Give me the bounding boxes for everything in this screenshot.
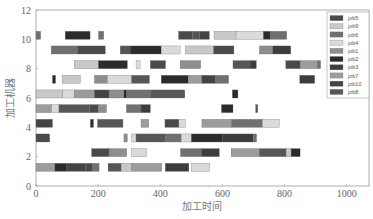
task-bar-job6 xyxy=(166,134,182,142)
task-bar-job5 xyxy=(36,134,50,142)
legend-label-job6: job6 xyxy=(347,32,358,38)
task-bar-job8 xyxy=(259,149,286,157)
legend-swatch-job10 xyxy=(330,81,343,86)
task-bar-job6 xyxy=(92,163,99,171)
gantt-chart: 02004006008001000 024681012 加工时间 加工机器 jo… xyxy=(0,0,373,219)
task-bar-job2 xyxy=(130,46,161,54)
task-bar-job5 xyxy=(286,61,300,69)
task-bar-job5 xyxy=(77,46,105,54)
task-bar-job8 xyxy=(136,134,166,142)
task-bar-job8 xyxy=(98,119,123,127)
x-tick-label: 1000 xyxy=(337,188,357,199)
task-bar-job2 xyxy=(291,149,300,157)
task-bar-job9 xyxy=(121,163,131,171)
legend-label-job8: job8 xyxy=(347,89,358,95)
task-bar-job1 xyxy=(109,149,127,157)
task-bar-job7 xyxy=(231,149,259,157)
task-bar-job8 xyxy=(233,61,250,69)
task-bar-job8 xyxy=(59,105,89,113)
task-bar-job4 xyxy=(131,134,136,142)
task-bar-job7 xyxy=(131,163,161,171)
task-bar-job4 xyxy=(52,105,59,113)
legend-swatch-job5 xyxy=(330,16,343,21)
task-bar-job3 xyxy=(250,61,256,69)
legend-label-job9: job9 xyxy=(347,23,358,29)
task-bar-job7 xyxy=(202,119,232,127)
task-bar-job6 xyxy=(215,75,228,83)
x-tick-label: 600 xyxy=(215,188,230,199)
task-bar-job4 xyxy=(136,61,140,69)
y-tick-label: 10 xyxy=(21,34,31,45)
y-tick-label: 8 xyxy=(26,63,31,74)
task-bar-job6 xyxy=(36,31,41,39)
legend-swatch-job2 xyxy=(330,57,343,62)
x-tick-label: 0 xyxy=(34,188,39,199)
task-bar-job4 xyxy=(236,31,263,39)
task-bar-job2 xyxy=(98,61,127,69)
task-bar-job2 xyxy=(191,134,222,142)
task-bar-job6 xyxy=(253,134,256,142)
task-bar-job3 xyxy=(273,46,291,54)
task-bar-job6 xyxy=(180,149,201,157)
task-bar-job10 xyxy=(66,163,85,171)
legend-label-job10: job10 xyxy=(347,81,361,87)
legend-label-job5: job5 xyxy=(347,15,358,21)
task-bar-job4 xyxy=(63,90,75,98)
task-bar-job7 xyxy=(36,163,55,171)
legend-label-job3: job3 xyxy=(347,64,358,70)
task-bar-job6 xyxy=(317,61,320,69)
task-bar-job8 xyxy=(150,90,184,98)
task-bar-job8 xyxy=(256,105,258,113)
task-bar-job10 xyxy=(199,31,209,39)
task-bar-job2 xyxy=(263,31,270,39)
y-axis-title: 加工机器 xyxy=(4,78,16,118)
task-bar-job6 xyxy=(271,31,287,39)
task-bar-job4 xyxy=(181,134,191,142)
task-bar-job10 xyxy=(94,90,109,98)
x-tick-label: 200 xyxy=(91,188,106,199)
y-tick-label: 0 xyxy=(26,181,31,192)
legend-swatch-job9 xyxy=(330,24,343,29)
task-bar-job1 xyxy=(98,105,106,113)
task-bar-job4 xyxy=(161,46,180,54)
task-bar-job7 xyxy=(300,61,317,69)
task-bar-job5 xyxy=(165,119,179,127)
task-bar-job1 xyxy=(180,61,201,69)
legend-swatch-job8 xyxy=(330,89,343,94)
legend-label-job2: job2 xyxy=(347,56,358,62)
task-bar-job7 xyxy=(74,90,94,98)
task-bar-job1 xyxy=(109,90,124,98)
x-tick-label: 800 xyxy=(277,188,292,199)
task-bar-job3 xyxy=(300,75,315,83)
y-tick-label: 2 xyxy=(26,151,31,162)
task-bar-job6 xyxy=(127,90,151,98)
task-bar-job2 xyxy=(232,90,238,98)
task-bar-job7 xyxy=(141,119,149,127)
task-bar-job10 xyxy=(202,75,215,83)
task-bar-job2 xyxy=(221,105,233,113)
task-bar-job6 xyxy=(231,119,262,127)
task-bar-job9 xyxy=(74,61,98,69)
task-bar-job2 xyxy=(124,90,127,98)
legend-swatch-job6 xyxy=(330,32,343,37)
task-bar-job8 xyxy=(132,75,150,83)
legend-swatch-job7 xyxy=(330,73,343,78)
y-tick-label: 6 xyxy=(26,93,31,104)
task-bar-job6 xyxy=(51,46,77,54)
task-bar-job2 xyxy=(65,31,90,39)
task-bar-job5 xyxy=(85,163,92,171)
task-bar-job1 xyxy=(124,134,127,142)
task-bar-job3 xyxy=(222,134,253,142)
task-bar-job9 xyxy=(185,46,214,54)
task-bar-job5 xyxy=(214,46,234,54)
legend-swatch-job4 xyxy=(330,40,343,45)
task-bar-job4 xyxy=(107,75,131,83)
legend-label-job7: job7 xyxy=(347,73,358,79)
task-bar-job6 xyxy=(126,105,141,113)
task-bar-job2 xyxy=(52,75,55,83)
x-tick-label: 400 xyxy=(153,188,168,199)
task-bar-job5 xyxy=(89,105,98,113)
task-bar-job3 xyxy=(165,163,189,171)
task-bar-job6 xyxy=(98,31,103,39)
task-bar-job4 xyxy=(131,149,146,157)
